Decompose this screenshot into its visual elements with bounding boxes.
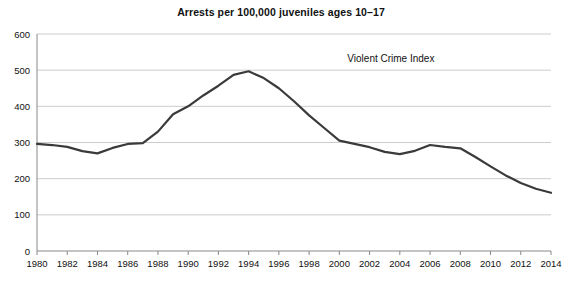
chart-container: Arrests per 100,000 juveniles ages 10–17… <box>0 0 562 281</box>
x-axis-tick-label: 1994 <box>238 258 259 269</box>
x-axis-tick-label: 1996 <box>268 258 289 269</box>
y-axis-tick-label: 300 <box>14 137 30 148</box>
x-axis-tick-label: 2000 <box>329 258 350 269</box>
x-axis-tick-label: 2012 <box>510 258 531 269</box>
x-axis-tick-label: 1998 <box>299 258 320 269</box>
series-annotation-label: Violent Crime Index <box>347 53 434 64</box>
x-axis-tick-label: 1992 <box>208 258 229 269</box>
x-axis-tick-label: 1990 <box>178 258 199 269</box>
data-series-line <box>37 71 551 193</box>
y-axis-tick-label: 600 <box>14 29 30 40</box>
x-axis-tick-label: 2004 <box>389 258 410 269</box>
x-axis-tick-label: 1980 <box>26 258 47 269</box>
y-axis-tick-label: 0 <box>25 246 30 257</box>
x-axis-tick-label: 2006 <box>419 258 440 269</box>
x-axis-tick-label: 1984 <box>87 258 108 269</box>
y-axis-tick-label: 200 <box>14 173 30 184</box>
x-axis-tick-label: 2008 <box>450 258 471 269</box>
y-axis-tick-label: 100 <box>14 209 30 220</box>
x-axis-tick-label: 1988 <box>147 258 168 269</box>
y-axis-tick-label: 400 <box>14 101 30 112</box>
y-axis-tick-label: 500 <box>14 65 30 76</box>
x-axis-tick-label: 2014 <box>540 258 561 269</box>
x-axis-tick-label: 2002 <box>359 258 380 269</box>
x-axis-tick-label: 1986 <box>117 258 138 269</box>
x-axis-tick-label: 2010 <box>480 258 501 269</box>
chart-plot-area: 0100200300400500600198019821984198619881… <box>0 0 562 281</box>
x-axis-tick-label: 1982 <box>57 258 78 269</box>
